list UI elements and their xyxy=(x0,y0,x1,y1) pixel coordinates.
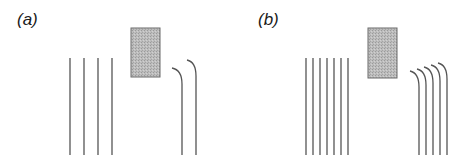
obstacle-block xyxy=(368,28,397,78)
curved-line xyxy=(172,68,182,155)
panel-b xyxy=(306,28,447,155)
curved-line xyxy=(410,71,419,155)
obstacle-block xyxy=(131,28,160,77)
panel-a xyxy=(70,28,196,155)
diagram-canvas xyxy=(0,0,453,157)
curved-line xyxy=(187,60,196,155)
